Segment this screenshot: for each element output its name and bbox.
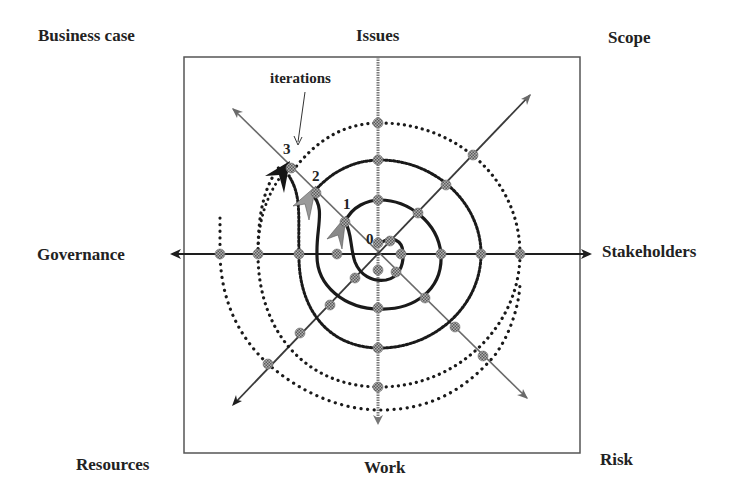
iterations-pointer bbox=[298, 92, 305, 142]
label-resources: Resources bbox=[76, 455, 149, 475]
label-governance: Governance bbox=[37, 245, 125, 265]
iteration-number-2: 2 bbox=[312, 168, 320, 185]
label-business-case: Business case bbox=[38, 26, 135, 46]
label-iterations: iterations bbox=[270, 70, 331, 87]
iteration-number-1: 1 bbox=[343, 196, 351, 213]
iteration-number-0: 0 bbox=[366, 231, 374, 248]
arrow-down-icon bbox=[373, 415, 383, 425]
iteration-number-3: 3 bbox=[283, 141, 291, 158]
label-stakeholders: Stakeholders bbox=[602, 242, 696, 262]
label-scope: Scope bbox=[608, 28, 651, 48]
label-work: Work bbox=[364, 458, 406, 478]
label-issues: Issues bbox=[356, 26, 399, 46]
label-risk: Risk bbox=[600, 450, 633, 470]
